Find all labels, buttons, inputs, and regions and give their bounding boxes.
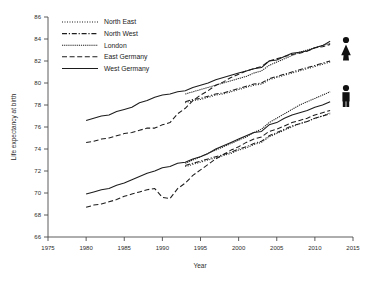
x-tick-label: 1980 (79, 245, 93, 251)
legend-label: East Germany (104, 53, 148, 61)
y-axis-title: Life expectancy at birth (10, 93, 18, 160)
y-tick-label: 72 (34, 168, 41, 174)
y-axis: 6668707274767880828486 (34, 14, 48, 240)
female-glyph (341, 37, 351, 61)
x-tick-label: 1990 (156, 245, 170, 251)
y-tick-label: 68 (34, 212, 41, 218)
y-tick-label: 82 (34, 58, 41, 64)
x-axis-title: Year (193, 262, 207, 269)
chart-legend: North EastNorth WestLondonEast GermanyWe… (62, 18, 150, 72)
y-tick-label: 76 (34, 124, 41, 130)
legend-label: London (104, 42, 127, 49)
y-tick-label: 66 (34, 234, 41, 240)
chart-canvas: 6668707274767880828486 19751980198519901… (0, 0, 380, 286)
y-tick-label: 80 (34, 80, 41, 86)
x-tick-label: 2005 (270, 245, 284, 251)
x-tick-label: 1995 (194, 245, 208, 251)
y-tick-label: 74 (34, 146, 41, 152)
legend-label: West Germany (104, 65, 150, 73)
x-tick-label: 2010 (308, 245, 322, 251)
x-tick-label: 2000 (232, 245, 246, 251)
series-line (185, 114, 330, 166)
legend-label: North East (104, 18, 136, 25)
series-line (185, 92, 330, 164)
x-tick-label: 1975 (41, 245, 55, 251)
y-tick-label: 70 (34, 190, 41, 196)
y-tick-label: 84 (34, 36, 41, 42)
y-tick-label: 86 (34, 14, 41, 20)
x-axis: 197519801985199019952000200520102015 (41, 237, 360, 251)
y-tick-label: 78 (34, 102, 41, 108)
x-tick-label: 2015 (346, 245, 360, 251)
series-line (86, 102, 330, 194)
life-expectancy-chart: 6668707274767880828486 19751980198519901… (0, 0, 380, 286)
x-tick-label: 1985 (118, 245, 132, 251)
legend-label: North West (104, 30, 138, 37)
male-glyph (342, 85, 349, 107)
